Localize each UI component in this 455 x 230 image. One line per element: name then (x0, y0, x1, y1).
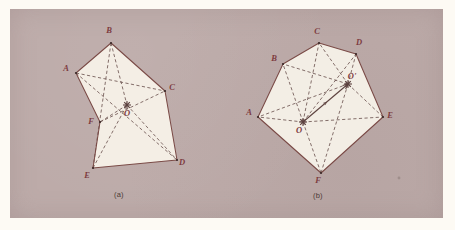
geometry-diagrams: ABCDEFO ABCDEFOO' (0, 0, 455, 230)
diagram-b: ABCDEFOO' (245, 26, 400, 185)
figure-root: ABCDEFO ABCDEFOO' (a) (b) (0, 0, 455, 230)
vertex-label-d: D (178, 157, 185, 167)
caption-b: (b) (313, 191, 323, 200)
paper-speck (398, 177, 401, 180)
center-label-o-prime: O' (348, 71, 357, 81)
vertex-label-b: B (105, 25, 112, 35)
center-label-o: O (296, 125, 302, 135)
vertex-label-b: B (270, 53, 277, 63)
diagram-a: ABCDEFO (62, 25, 185, 180)
vertex-label-e: E (386, 110, 393, 120)
center-label-o: O (124, 108, 130, 118)
vertex-label-a: A (62, 63, 69, 73)
vertex-label-f: F (314, 175, 321, 185)
vertex-label-f: F (87, 116, 94, 126)
vertex-label-c: C (169, 82, 175, 92)
vertex-label-a: A (245, 107, 252, 117)
vertex-label-c: C (314, 26, 320, 36)
vertex-label-d: D (355, 37, 362, 47)
vertex-label-e: E (83, 170, 90, 180)
caption-a: (a) (114, 190, 124, 199)
